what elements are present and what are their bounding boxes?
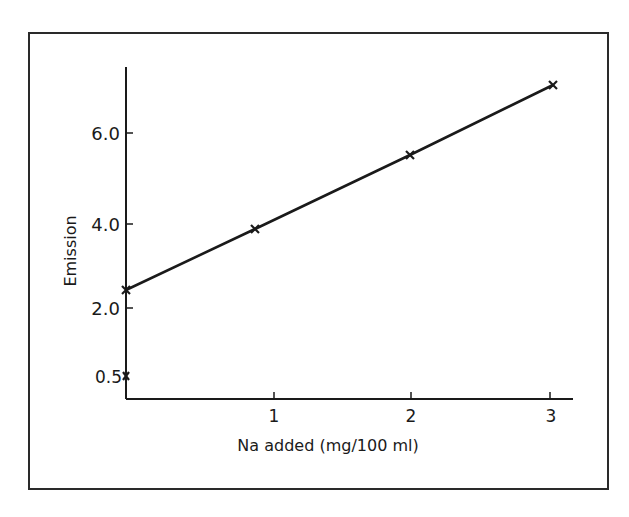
- y-tick-label-2: 2.0: [91, 298, 120, 319]
- y-tick-label-0-5: 0.5: [95, 367, 122, 387]
- x-tick-label-1: 1: [269, 406, 280, 426]
- data-line: [126, 85, 553, 290]
- x-axis-label: Na added (mg/100 ml): [237, 436, 418, 455]
- y-tick-label-6: 6.0: [91, 123, 120, 144]
- x-tick-label-2: 2: [406, 406, 417, 426]
- x-tick-label-3: 3: [546, 406, 557, 426]
- y-tick-label-4: 4.0: [91, 214, 120, 235]
- y-ticks: [126, 133, 133, 308]
- x-ticks: [274, 392, 550, 399]
- chart-figure: 6.0 4.0 2.0 0.5 1 2 3 Na added (mg/100 m…: [0, 0, 629, 517]
- chart-svg: 6.0 4.0 2.0 0.5 1 2 3 Na added (mg/100 m…: [0, 0, 629, 517]
- y-axis-label: Emission: [61, 215, 80, 286]
- data-markers: [122, 81, 557, 380]
